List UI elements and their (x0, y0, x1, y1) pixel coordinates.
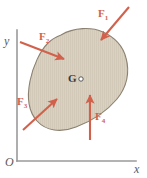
force-label-f2: F2 (39, 31, 49, 45)
force-label-f1: F1 (98, 8, 108, 22)
diagram-canvas (0, 0, 147, 178)
force-label-f4-text: F (95, 110, 102, 122)
force-label-f3-text: F (17, 95, 24, 107)
centroid-marker-icon (79, 77, 83, 81)
force-label-f3-sub: 3 (24, 102, 28, 110)
force-label-f4-sub: 4 (102, 117, 106, 125)
force-label-f2-text: F (39, 30, 46, 42)
force-label-f4: F4 (95, 111, 105, 125)
free-body-diagram-figure: F1 F2 F3 F4 G y x O (0, 0, 147, 178)
y-axis-label: y (4, 35, 9, 47)
force-label-f1-sub: 1 (105, 14, 109, 22)
force-label-f1-text: F (98, 7, 105, 19)
x-axis-label: x (134, 163, 139, 175)
origin-label: O (5, 156, 14, 168)
force-label-f3: F3 (17, 96, 27, 110)
centroid-label: G (68, 73, 77, 84)
force-label-f2-sub: 2 (46, 37, 50, 45)
